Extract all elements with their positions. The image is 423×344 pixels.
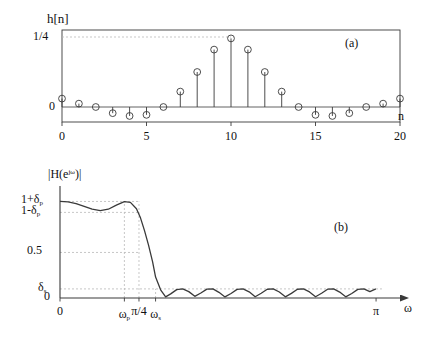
panel-b-magnitude-response: |H(ejω)| ω (b) 1+δp1-δp0.5δs0 0ωpπ/4ωsπ <box>0 168 423 344</box>
panel-a-x-tick-label-1: 5 <box>137 130 157 142</box>
panel-a-x-tick-label-0: 0 <box>52 130 72 142</box>
panel-b-tag: (b) <box>334 221 348 233</box>
panel-a-y-tick-label-1: 0 <box>49 100 55 112</box>
panel-b-y-axis-title-main: |H(e <box>48 167 68 181</box>
panel-a-x-tick-label-2: 10 <box>221 130 241 142</box>
panel-a-x-axis-label: n <box>398 110 404 122</box>
panel-a-tag: (a) <box>345 37 358 49</box>
panel-b-response-curve <box>60 201 376 296</box>
panel-b-y-tick-label-1: 1-δp <box>21 204 40 218</box>
panel-b-y-axis-title-close: )| <box>75 167 81 181</box>
panel-b-svg <box>0 168 423 344</box>
panel-b-y-axis-title: |H(ejω)| <box>48 168 81 180</box>
panel-b-dashed-guides <box>60 201 382 298</box>
panel-b-x-axis-label: ω <box>404 302 412 314</box>
panel-b-axes <box>60 186 400 298</box>
panel-a-stem-plot: h[n] n (a) 1/40 05101520 <box>0 0 423 170</box>
panel-b-y-tick-label-4: 0 <box>44 290 50 302</box>
panel-a-y-axis-title: h[n] <box>47 12 69 25</box>
panel-a-x-tick-label-4: 20 <box>390 130 410 142</box>
panel-b-y-tick-label-2: 0.5 <box>27 244 42 256</box>
panel-a-tick-marks <box>62 122 400 126</box>
panel-b-x-tick-label-4: π <box>365 305 387 317</box>
panel-b-x-tick-label-3: ωs <box>145 308 167 322</box>
figure-container: h[n] n (a) 1/40 05101520 |H(ejω)| ω (b) … <box>0 0 423 344</box>
panel-b-x-tick-label-0: 0 <box>49 305 71 317</box>
panel-a-y-tick-label-0: 1/4 <box>33 30 48 42</box>
panel-a-x-tick-label-3: 15 <box>306 130 326 142</box>
